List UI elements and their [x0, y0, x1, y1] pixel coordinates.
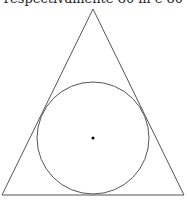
isosceles-triangle	[2, 9, 184, 195]
geometry-figure	[0, 0, 187, 200]
diagram-canvas: respectivamente 80 m e 80	[0, 0, 187, 200]
circle-center-point	[92, 137, 95, 140]
